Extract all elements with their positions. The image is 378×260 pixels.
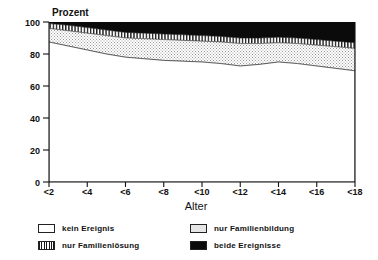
stacked-area-chart: 100 80 60 40 20 0 <2 <4 <6 <8 <10: [0, 0, 378, 215]
y-tick-label-100: 100: [25, 18, 40, 28]
x-tick-label-3: <6: [120, 187, 130, 197]
legend-swatch-beide-ereignisse: [190, 241, 207, 250]
x-axis-title: Alter: [185, 200, 208, 212]
legend-swatch-nur-familienbildung: [190, 224, 207, 233]
chart-page: 100 80 60 40 20 0 <2 <4 <6 <8 <10: [0, 0, 378, 260]
y-tick-label-20: 20: [30, 146, 40, 156]
legend-label-beide-ereignisse: beide Ereignisse: [214, 241, 281, 250]
y-axis-title: Prozent: [52, 7, 89, 18]
legend-label-nur-familienbildung: nur Familienbildung: [214, 224, 294, 233]
x-tick-label-6: <12: [233, 187, 248, 197]
legend-swatch-nur-familienloesung: [38, 241, 55, 250]
x-tick-label-2: <4: [82, 187, 92, 197]
legend-item-nur-familienbildung[interactable]: nur Familienbildung: [190, 224, 358, 233]
chart-legend: kein Ereignis nur Familienbildung nur Fa…: [0, 218, 378, 260]
legend-label-kein-ereignis: kein Ereignis: [62, 224, 114, 233]
legend-item-nur-familienloesung[interactable]: nur Familienlösung: [38, 241, 190, 250]
y-tick-label-60: 60: [30, 82, 40, 92]
legend-swatch-kein-ereignis: [38, 224, 55, 233]
y-tick-label-40: 40: [30, 114, 40, 124]
x-tick-label-7: <14: [271, 187, 286, 197]
legend-item-beide-ereignisse[interactable]: beide Ereignisse: [190, 241, 358, 250]
legend-label-nur-familienloesung: nur Familienlösung: [62, 241, 139, 250]
x-tick-label-1: <2: [44, 187, 54, 197]
x-tick-label-9: <18: [347, 187, 362, 197]
y-tick-label-0: 0: [35, 178, 40, 188]
y-tick-label-80: 80: [30, 50, 40, 60]
x-tick-label-4: <8: [159, 187, 169, 197]
chart-canvas: 100 80 60 40 20 0 <2 <4 <6 <8 <10: [0, 0, 378, 215]
x-tick-label-5: <10: [194, 187, 209, 197]
x-tick-label-8: <16: [309, 187, 324, 197]
legend-item-kein-ereignis[interactable]: kein Ereignis: [38, 224, 190, 233]
y-axis-ticks: [43, 22, 49, 182]
